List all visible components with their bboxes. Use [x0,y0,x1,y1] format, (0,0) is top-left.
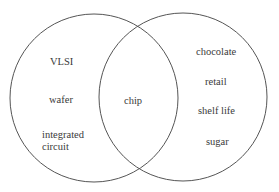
label-sugar: sugar [206,136,229,147]
label-chocolate: chocolate [196,46,236,57]
left-circle [10,14,178,182]
label-wafer: wafer [49,94,73,105]
label-shelf-life: shelf life [198,105,235,116]
label-circuit: circuit [42,141,69,152]
label-retail: retail [205,76,227,87]
label-chip: chip [124,95,142,106]
label-integrated: integrated [42,129,84,140]
label-vlsi: VLSI [50,56,73,67]
